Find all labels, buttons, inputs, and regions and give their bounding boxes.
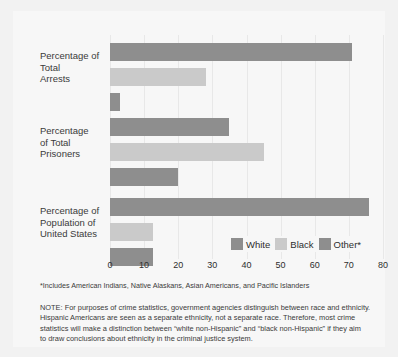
x-tick-label: 30 <box>207 260 217 270</box>
plot-area <box>110 35 383 259</box>
note-line: Hispanic Americans are seen as a separat… <box>40 313 380 323</box>
legend-label: Black <box>290 239 313 250</box>
bar-white <box>110 43 352 61</box>
gridline <box>315 35 316 259</box>
category-label-line: Percentage of <box>40 205 110 217</box>
legend-item-black: Black <box>275 238 313 250</box>
category-label-line: of Total <box>40 137 110 149</box>
gridline <box>281 35 282 259</box>
category-label-line: Population of <box>40 217 110 229</box>
category-label-line: Arrests <box>40 73 110 85</box>
legend-swatch-icon <box>319 238 331 250</box>
note-block: NOTE: For purposes of crime statistics, … <box>40 303 380 345</box>
category-label-line: Percentage <box>40 125 110 137</box>
category-label-line: Total <box>40 62 110 74</box>
legend-label: White <box>246 239 270 250</box>
x-tick-label: 50 <box>276 260 286 270</box>
bar-white <box>110 198 369 216</box>
note-line: statistics will make a distinction betwe… <box>40 324 380 334</box>
note-line: to draw conclusions about ethnicity in t… <box>40 334 380 344</box>
legend-item-other: Other* <box>319 238 361 250</box>
x-tick-label: 70 <box>344 260 354 270</box>
bar-black <box>110 223 153 241</box>
category-label-prisoners: Percentage of Total Prisoners <box>40 125 110 160</box>
category-label-arrests: Percentage of Total Arrests <box>40 50 110 85</box>
note-line: NOTE: For purposes of crime statistics, … <box>40 303 380 313</box>
gridline <box>383 35 384 259</box>
x-tick-label: 80 <box>378 260 388 270</box>
chart-legend: WhiteBlackOther* <box>229 236 363 252</box>
category-label-population: Percentage of Population of United State… <box>40 205 110 240</box>
gridline <box>349 35 350 259</box>
category-label-line: Prisoners <box>40 148 110 160</box>
x-tick-label: 40 <box>241 260 251 270</box>
bar-other <box>110 93 120 111</box>
legend-swatch-icon <box>275 238 287 250</box>
x-tick-label: 10 <box>139 260 149 270</box>
legend-label: Other* <box>334 239 361 250</box>
legend-item-white: White <box>231 238 270 250</box>
chart-figure: Percentage of Total Arrests Percentage o… <box>0 0 398 357</box>
x-tick-label: 60 <box>310 260 320 270</box>
x-tick-label: 20 <box>173 260 183 270</box>
bar-black <box>110 143 264 161</box>
x-axis: 01020304050607080 <box>110 260 383 274</box>
x-tick-label: 0 <box>107 260 112 270</box>
chart-panel: Percentage of Total Arrests Percentage o… <box>13 11 385 347</box>
category-label-line: Percentage of <box>40 50 110 62</box>
bar-other <box>110 168 178 186</box>
bar-black <box>110 68 206 86</box>
bar-white <box>110 118 229 136</box>
legend-swatch-icon <box>231 238 243 250</box>
category-label-line: United States <box>40 228 110 240</box>
footnote: *Includes American Indians, Native Alask… <box>40 281 380 290</box>
